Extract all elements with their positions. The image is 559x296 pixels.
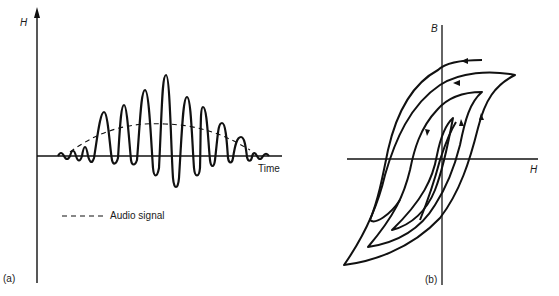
panel-b-label: (b) — [425, 275, 437, 285]
panel-b-y-axis-label: B — [431, 24, 438, 34]
panel-a-x-axis-label: Time — [258, 164, 280, 174]
outer-loop — [344, 72, 515, 265]
panel-a-y-arrow-icon — [34, 7, 40, 18]
modulated-waveform — [58, 75, 269, 187]
legend-label: Audio signal — [110, 211, 164, 221]
middle-loop — [370, 60, 482, 220]
arrow-left-icon — [461, 58, 468, 64]
innermost-loop — [420, 122, 456, 220]
panel-a-y-axis-label: H — [20, 18, 27, 28]
panel-b-x-axis-label: H — [530, 165, 537, 175]
diagram-canvas — [0, 0, 559, 296]
panel-a-label: (a) — [3, 274, 15, 284]
arrow-down-icon — [425, 129, 430, 136]
hysteresis-loops — [344, 60, 515, 265]
arrow-left-icon — [453, 80, 460, 86]
arrow-up-icon — [459, 119, 464, 126]
